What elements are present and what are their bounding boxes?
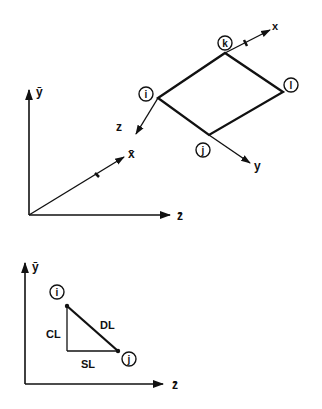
node-k: k xyxy=(218,36,232,50)
bottom-y-label: ȳ xyxy=(32,260,39,274)
node-j: j xyxy=(196,143,210,157)
global-x-label: x̄ xyxy=(128,147,135,161)
projection-diagram: ȳ z̄ CL DL SL i j xyxy=(25,260,178,392)
global-axes: ȳ x̄ z̄ xyxy=(29,85,183,223)
sl-label: SL xyxy=(81,358,95,370)
local-y-label: y xyxy=(254,159,261,173)
cl-label: CL xyxy=(46,328,61,340)
double-arrow-tick xyxy=(95,173,99,177)
svg-text:l: l xyxy=(290,80,293,91)
global-y-label: ȳ xyxy=(36,85,43,99)
element-outline xyxy=(158,53,283,135)
svg-text:i: i xyxy=(56,287,59,298)
node-i: i xyxy=(139,87,153,101)
local-x-label: x xyxy=(272,20,279,32)
global-x-axis xyxy=(29,157,124,215)
svg-text:k: k xyxy=(222,38,228,49)
local-x-tick xyxy=(244,40,247,46)
node-l: l xyxy=(284,78,298,92)
dl-label: DL xyxy=(100,319,115,331)
bottom-node-j: j xyxy=(122,352,136,366)
point-i xyxy=(65,304,69,308)
bottom-node-i: i xyxy=(50,285,64,299)
local-y-axis xyxy=(209,135,250,163)
bottom-z-label: z̄ xyxy=(172,378,178,392)
local-z-label: z xyxy=(116,120,122,134)
structural-diagram: ȳ x̄ z̄ x y z i k l j xyxy=(0,0,322,409)
svg-text:j: j xyxy=(127,354,131,365)
plate-element: x y z i k l j xyxy=(116,20,298,173)
global-z-label: z̄ xyxy=(177,209,183,223)
svg-text:j: j xyxy=(201,145,205,156)
svg-text:i: i xyxy=(145,89,148,100)
point-j xyxy=(116,349,120,353)
local-z-axis xyxy=(136,98,158,134)
